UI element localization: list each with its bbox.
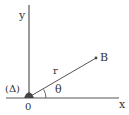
y-axis-label: y	[19, 10, 25, 21]
angle-arc	[44, 90, 46, 99]
origin-label: 0	[25, 102, 31, 112]
point-b-label: B	[100, 52, 108, 63]
angle-theta-label: θ	[55, 84, 62, 95]
x-axis-label: x	[119, 99, 125, 110]
pivot-blob	[24, 92, 34, 98]
radius-line-ob	[29, 58, 96, 97]
radius-label: r	[53, 66, 58, 76]
polar-coordinate-diagram: y x 0 (Δ) B r θ	[0, 0, 129, 115]
point-b-marker	[95, 57, 98, 60]
axis-delta-label: (Δ)	[5, 84, 20, 94]
